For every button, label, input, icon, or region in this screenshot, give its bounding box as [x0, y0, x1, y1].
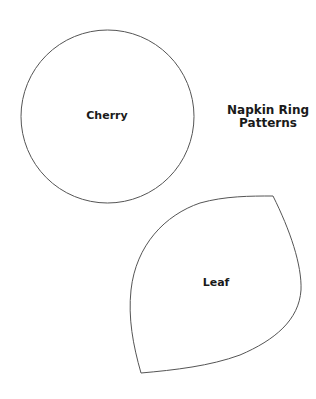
- cherry-label: Cherry: [77, 109, 137, 122]
- pattern-outlines: [0, 0, 316, 399]
- page-title: Napkin Ring Patterns: [220, 104, 316, 130]
- title-line-2: Patterns: [220, 117, 316, 130]
- leaf-label: Leaf: [196, 276, 236, 289]
